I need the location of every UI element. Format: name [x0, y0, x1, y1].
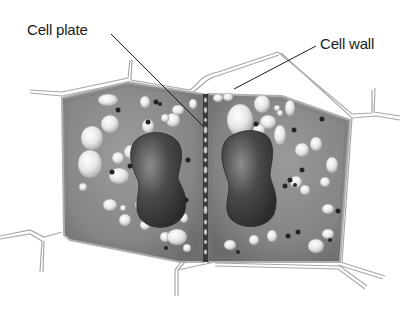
diagram: Cell plate Cell wall — [0, 0, 408, 314]
right-nucleus — [222, 131, 276, 227]
cell-plate-label: Cell plate — [27, 21, 88, 38]
cell-wall-label: Cell wall — [320, 35, 374, 52]
cell-plate — [203, 94, 209, 262]
left-nucleus — [131, 133, 186, 228]
